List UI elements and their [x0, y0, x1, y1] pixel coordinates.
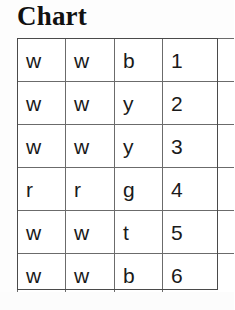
table-cell: w	[66, 39, 115, 82]
table-row: w w y 3	[18, 125, 235, 168]
table-row: w w t 5	[18, 211, 235, 254]
chart-table: w w b 1 w w y 2 w w y 3 r r g 4	[17, 38, 234, 297]
table-cell: y	[115, 82, 163, 125]
table-cell: 5	[163, 211, 235, 254]
table-row: w w y 2	[18, 82, 235, 125]
table-cell: w	[66, 254, 115, 297]
page-footer-area	[0, 292, 234, 310]
table-cell: r	[18, 168, 66, 211]
table-cell: w	[66, 125, 115, 168]
table-cell: t	[115, 211, 163, 254]
table-row: w w b 1	[18, 39, 235, 82]
chart-page: Chart w w b 1 w w y 2 w w y 3 r	[0, 0, 234, 310]
table-cell: w	[66, 211, 115, 254]
table-cell: w	[18, 39, 66, 82]
table-cell: b	[115, 39, 163, 82]
table-cell: b	[115, 254, 163, 297]
table-cell: w	[18, 211, 66, 254]
table-cell: w	[18, 82, 66, 125]
table-cell: y	[115, 125, 163, 168]
table-row: r r g 4	[18, 168, 235, 211]
table-cell: w	[66, 82, 115, 125]
table-cell: 1	[163, 39, 235, 82]
table-cell: g	[115, 168, 163, 211]
table-cell: w	[18, 125, 66, 168]
table-cell: 2	[163, 82, 235, 125]
table-cell: r	[66, 168, 115, 211]
table-cell: w	[18, 254, 66, 297]
table-body: w w b 1 w w y 2 w w y 3 r r g 4	[18, 39, 235, 297]
table-cell: 4	[163, 168, 235, 211]
page-title: Chart	[17, 1, 87, 32]
table-cell: 3	[163, 125, 235, 168]
table-cell: 6	[163, 254, 235, 297]
table-row: w w b 6	[18, 254, 235, 297]
